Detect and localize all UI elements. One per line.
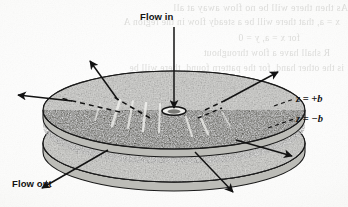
- z-bottom-variable: z: [296, 113, 300, 124]
- z-top-equals: =: [303, 93, 309, 104]
- flow-out-label: Flow out: [12, 178, 52, 189]
- inlet-hole: [162, 107, 186, 115]
- figure-radial-flow-between-parallel-disks: As then there will be no flow away at al…: [0, 0, 348, 207]
- z-bottom-equals: =: [303, 113, 309, 124]
- z-bottom-value: −b: [311, 113, 323, 124]
- z-top-variable: z: [296, 93, 300, 104]
- z-top-label: z = +b: [296, 93, 323, 104]
- flow-in-label: Flow in: [140, 11, 173, 22]
- z-top-value: +b: [311, 93, 322, 104]
- inlet-hole-shadow: [168, 109, 181, 113]
- z-bottom-label: z = −b: [296, 113, 323, 124]
